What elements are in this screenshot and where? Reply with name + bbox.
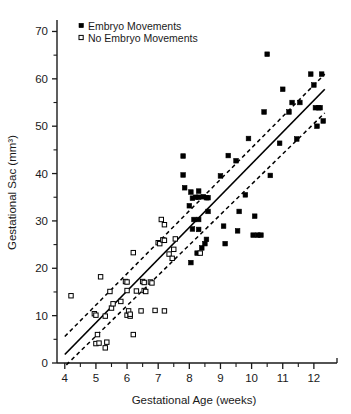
data-point-embryo-movements — [235, 229, 240, 234]
y-tick-label: 60 — [35, 73, 48, 85]
data-point-embryo-movements — [319, 72, 324, 77]
data-point-no-embryo-movements — [139, 309, 143, 313]
y-tick-label: 40 — [35, 168, 48, 180]
data-point-embryo-movements — [182, 185, 187, 190]
y-tick-label: 70 — [35, 25, 48, 37]
chart-canvas: 010203040506070456789101112 Gestational … — [0, 0, 351, 414]
data-point-embryo-movements — [196, 189, 201, 194]
data-point-embryo-movements — [206, 209, 211, 214]
data-point-no-embryo-movements — [119, 299, 123, 303]
data-point-no-embryo-movements — [97, 341, 101, 345]
data-point-embryo-movements — [199, 246, 204, 251]
data-point-embryo-movements — [181, 154, 186, 159]
data-point-embryo-movements — [259, 233, 264, 238]
data-point-embryo-movements — [189, 260, 194, 265]
y-axis-label: Gestational Sac (mm³) — [6, 135, 18, 250]
data-point-embryo-movements — [192, 217, 197, 222]
legend-label-no-embryo-movements: No Embryo Movements — [88, 32, 198, 44]
data-point-no-embryo-movements — [162, 238, 166, 242]
x-tick-label: 4 — [62, 372, 69, 384]
data-point-no-embryo-movements — [131, 250, 135, 254]
data-point-embryo-movements — [277, 141, 282, 146]
data-point-embryo-movements — [187, 203, 192, 208]
x-tick-label: 5 — [93, 372, 99, 384]
data-point-embryo-movements — [318, 105, 323, 110]
lower-confidence-band — [66, 113, 324, 365]
data-point-embryo-movements — [234, 158, 239, 163]
data-point-embryo-movements — [204, 237, 209, 242]
data-point-embryo-movements — [321, 119, 326, 124]
y-tick-label: 20 — [35, 262, 48, 274]
axes-group: 010203040506070456789101112 — [35, 20, 337, 384]
data-point-no-embryo-movements — [98, 275, 102, 279]
data-point-embryo-movements — [181, 173, 186, 178]
data-point-embryo-movements — [308, 72, 313, 77]
data-point-no-embryo-movements — [170, 256, 174, 260]
legend-marker-embryo-movements — [79, 23, 83, 27]
data-point-embryo-movements — [246, 136, 251, 141]
data-point-embryo-movements — [262, 110, 267, 115]
data-point-no-embryo-movements — [153, 308, 157, 312]
legend-marker-no-embryo-movements — [79, 35, 83, 39]
data-point-no-embryo-movements — [173, 237, 177, 241]
data-point-embryo-movements — [315, 124, 320, 129]
x-tick-label: 8 — [186, 372, 192, 384]
legend-group: Embryo MovementsNo Embryo Movements — [79, 20, 198, 44]
data-point-embryo-movements — [237, 209, 242, 214]
data-point-embryo-movements — [280, 87, 285, 92]
y-tick-label: 0 — [42, 357, 48, 369]
y-tick-label: 10 — [35, 310, 48, 322]
data-point-no-embryo-movements — [111, 302, 115, 306]
data-point-no-embryo-movements — [128, 312, 132, 316]
data-point-no-embryo-movements — [131, 332, 135, 336]
data-point-embryo-movements — [243, 193, 248, 198]
data-point-no-embryo-movements — [109, 306, 113, 310]
data-point-embryo-movements — [268, 173, 273, 178]
data-point-no-embryo-movements — [142, 280, 146, 284]
upper-confidence-band — [65, 74, 325, 336]
data-point-embryo-movements — [223, 241, 228, 246]
x-tick-label: 7 — [155, 372, 161, 384]
data-point-no-embryo-movements — [105, 340, 109, 344]
x-tick-label: 9 — [217, 372, 223, 384]
data-point-no-embryo-movements — [103, 314, 107, 318]
data-point-no-embryo-movements — [172, 247, 176, 251]
data-points-group — [69, 52, 326, 350]
data-point-no-embryo-movements — [167, 252, 171, 256]
data-point-embryo-movements — [196, 227, 201, 232]
data-point-no-embryo-movements — [144, 289, 148, 293]
data-point-no-embryo-movements — [125, 280, 129, 284]
data-point-embryo-movements — [226, 153, 231, 158]
data-point-embryo-movements — [196, 217, 201, 222]
data-point-embryo-movements — [221, 224, 226, 229]
x-tick-label: 10 — [245, 372, 258, 384]
data-point-embryo-movements — [203, 241, 208, 246]
legend-label-embryo-movements: Embryo Movements — [88, 20, 181, 32]
data-point-embryo-movements — [287, 110, 292, 115]
data-point-no-embryo-movements — [69, 294, 73, 298]
data-point-embryo-movements — [312, 83, 317, 88]
data-point-embryo-movements — [290, 100, 295, 105]
data-point-embryo-movements — [251, 233, 256, 238]
data-point-embryo-movements — [190, 227, 195, 232]
data-point-no-embryo-movements — [134, 289, 138, 293]
data-point-no-embryo-movements — [150, 281, 154, 285]
data-point-no-embryo-movements — [108, 289, 112, 293]
data-point-no-embryo-movements — [162, 223, 166, 227]
data-point-embryo-movements — [294, 137, 299, 142]
y-tick-label: 50 — [35, 120, 48, 132]
x-axis-label: Gestational Age (weeks) — [132, 394, 257, 406]
data-point-embryo-movements — [265, 52, 270, 57]
scatter-plot-figure: 010203040506070456789101112 Gestational … — [0, 0, 351, 414]
data-point-no-embryo-movements — [125, 288, 129, 292]
data-point-no-embryo-movements — [162, 309, 166, 313]
y-tick-label: 30 — [35, 215, 48, 227]
data-point-embryo-movements — [218, 174, 223, 179]
data-point-embryo-movements — [298, 100, 303, 105]
data-point-embryo-movements — [196, 195, 201, 200]
x-tick-label: 11 — [277, 372, 289, 384]
data-point-embryo-movements — [189, 190, 194, 195]
x-tick-label: 12 — [307, 372, 320, 384]
x-tick-label: 6 — [124, 372, 130, 384]
data-point-no-embryo-movements — [95, 332, 99, 336]
